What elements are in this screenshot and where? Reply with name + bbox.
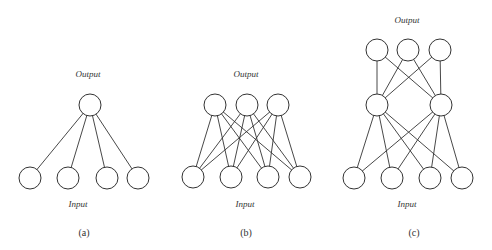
panel-a-caption: (a) <box>78 227 89 238</box>
output-node <box>429 39 451 61</box>
input-node <box>419 167 441 189</box>
input-node <box>381 167 403 189</box>
input-node <box>289 166 311 188</box>
input-node <box>451 167 473 189</box>
panel-b-caption: (b) <box>240 227 252 238</box>
panel-c <box>343 39 473 189</box>
connection-edge <box>36 113 83 171</box>
connection-edge <box>92 115 105 169</box>
panel-c-caption: (c) <box>408 227 419 238</box>
panel-a <box>19 94 149 189</box>
panel-b-output-label: Output <box>233 69 258 79</box>
input-node <box>343 167 365 189</box>
connection-edge <box>71 114 87 168</box>
connection-edge <box>357 114 374 168</box>
hidden-node <box>366 94 388 116</box>
connection-edge <box>431 115 439 168</box>
connection-edge <box>382 59 403 97</box>
input-node <box>57 167 79 189</box>
output-node <box>204 94 226 116</box>
network-diagrams <box>0 0 492 250</box>
panel-c-input-label: Input <box>398 199 417 209</box>
connection-edge <box>217 115 229 168</box>
input-node <box>96 167 118 189</box>
connection-edge <box>385 111 455 171</box>
panel-a-input-label: Input <box>69 199 88 209</box>
connection-edge <box>269 115 276 167</box>
output-node <box>267 94 289 116</box>
output-node <box>366 39 388 61</box>
input-node <box>127 167 149 189</box>
input-node <box>257 166 279 188</box>
panel-a-output-label: Output <box>75 69 100 79</box>
output-node <box>236 94 258 116</box>
hidden-node <box>430 94 452 116</box>
connection-edge <box>379 115 390 169</box>
connection-edge <box>440 60 441 95</box>
input-node <box>182 166 204 188</box>
panel-b-input-label: Input <box>236 199 255 209</box>
output-node <box>397 39 419 61</box>
output-node <box>79 94 101 116</box>
input-node <box>220 166 242 188</box>
panel-c-output-label: Output <box>394 15 419 25</box>
input-node <box>19 167 41 189</box>
connection-edge <box>196 114 212 167</box>
connection-edge <box>95 113 132 169</box>
connection-edge <box>444 115 460 169</box>
panel-b <box>182 94 311 188</box>
neural-network-figure: Output Input (a) Output Input (b) Output… <box>0 0 492 250</box>
connection-edge <box>281 114 297 167</box>
